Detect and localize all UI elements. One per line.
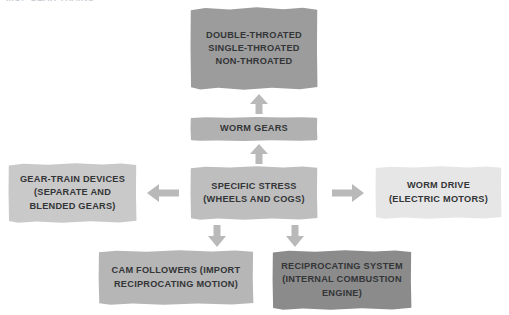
arrow-down-center-to-reciprocating-system xyxy=(285,224,305,248)
node-worm-drive-line-2: (ELECTRIC MOTORS) xyxy=(379,193,498,206)
cropped-header-text: ...OF GEAR TRAINS xyxy=(6,0,94,3)
node-throated-line-3: NON-THROATED xyxy=(194,55,314,68)
node-throated-types[interactable]: DOUBLE-THROATED SINGLE-THROATED NON-THRO… xyxy=(190,7,318,90)
node-worm-gears[interactable]: WORM GEARS xyxy=(190,117,318,141)
node-throated-line-1: DOUBLE-THROATED xyxy=(194,29,314,42)
node-cam-followers-line-1: CAM FOLLOWERS (IMPORT xyxy=(102,264,250,277)
node-worm-drive[interactable]: WORM DRIVE (ELECTRIC MOTORS) xyxy=(375,166,502,219)
node-reciprocating-line-2: (INTERNAL COMBUSTION xyxy=(276,273,408,286)
arrow-right-center-to-worm-drive xyxy=(331,182,365,204)
node-gear-train-line-1: GEAR-TRAIN DEVICES xyxy=(12,173,133,186)
node-worm-drive-line-1: WORM DRIVE xyxy=(379,179,498,192)
node-throated-line-2: SINGLE-THROATED xyxy=(194,42,314,55)
arrow-up-worm-gears-to-throated xyxy=(249,93,269,115)
node-cam-followers[interactable]: CAM FOLLOWERS (IMPORT RECIPROCATING MOTI… xyxy=(98,250,254,305)
diagram-canvas: ...OF GEAR TRAINS DOUBLE-THROATED SINGLE… xyxy=(0,0,509,315)
node-cam-followers-line-2: RECIPROCATING MOTION) xyxy=(102,278,250,291)
node-gear-train-line-2: (SEPARATE AND xyxy=(12,186,133,199)
node-specific-stress-line-2: (WHEELS AND COGS) xyxy=(194,193,314,206)
node-gear-train-line-3: BLENDED GEARS) xyxy=(12,200,133,213)
node-gear-train-devices[interactable]: GEAR-TRAIN DEVICES (SEPARATE AND BLENDED… xyxy=(8,163,137,223)
node-specific-stress[interactable]: SPECIFIC STRESS (WHEELS AND COGS) xyxy=(190,166,318,220)
node-reciprocating-line-1: RECIPROCATING SYSTEM xyxy=(276,260,408,273)
arrow-up-center-to-worm-gears xyxy=(249,143,269,165)
node-worm-gears-label: WORM GEARS xyxy=(194,122,314,135)
arrow-left-center-to-gear-train xyxy=(146,182,180,204)
node-reciprocating-line-3: ENGINE) xyxy=(276,287,408,300)
arrow-down-center-to-cam-followers xyxy=(207,224,227,248)
node-specific-stress-line-1: SPECIFIC STRESS xyxy=(194,180,314,193)
node-reciprocating-system[interactable]: RECIPROCATING SYSTEM (INTERNAL COMBUSTIO… xyxy=(272,250,412,310)
